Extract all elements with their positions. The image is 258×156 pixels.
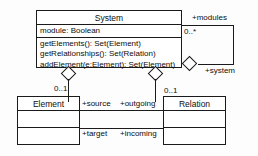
system-operations-compartment: getElements(): Set(Element) getRelations… bbox=[37, 38, 181, 71]
assoc-system-element-line bbox=[68, 79, 69, 102]
class-name-element: Element bbox=[18, 97, 79, 111]
element-attributes-compartment bbox=[18, 111, 79, 128]
class-box-element[interactable]: Element bbox=[17, 96, 80, 145]
class-name-system: System bbox=[37, 11, 181, 25]
relation-title-compartment: Relation bbox=[164, 97, 225, 111]
label-modules-multiplicity: 0..* bbox=[184, 27, 196, 37]
label-system-role: +system bbox=[205, 66, 235, 76]
operation-get-elements: getElements(): Set(Element) bbox=[37, 39, 181, 50]
assoc-modules-right-segment bbox=[233, 25, 234, 65]
class-name-relation: Relation bbox=[164, 97, 225, 111]
label-system-relation-multiplicity: 0..1 bbox=[164, 86, 177, 96]
label-target-role: +target bbox=[82, 129, 107, 139]
system-attributes-compartment: module: Boolean bbox=[37, 25, 181, 38]
class-box-system[interactable]: System module: Boolean getElements(): Se… bbox=[36, 10, 182, 68]
label-system-element-multiplicity: 0..1 bbox=[54, 84, 67, 94]
label-modules-role: +modules bbox=[192, 13, 227, 23]
assoc-source-outgoing-line bbox=[80, 110, 163, 111]
label-incoming-role: +incoming bbox=[120, 129, 157, 139]
aggregation-diamond-system-self bbox=[182, 56, 198, 72]
operation-get-relationships: getRelationships(): Set(Relation) bbox=[37, 49, 181, 60]
operation-add-element: addElement(e:Element): Set(Element) bbox=[37, 60, 181, 71]
assoc-modules-top-segment bbox=[182, 25, 234, 26]
relation-attributes-compartment bbox=[164, 111, 225, 128]
label-outgoing-role: +outgoing bbox=[120, 99, 155, 109]
uml-class-diagram: System module: Boolean getElements(): Se… bbox=[0, 0, 258, 156]
element-title-compartment: Element bbox=[18, 97, 79, 111]
attribute-module: module: Boolean bbox=[37, 26, 181, 37]
system-title-compartment: System bbox=[37, 11, 181, 25]
class-box-relation[interactable]: Relation bbox=[163, 96, 226, 145]
label-source-role: +source bbox=[82, 99, 111, 109]
assoc-system-bottom-segment bbox=[198, 64, 234, 65]
